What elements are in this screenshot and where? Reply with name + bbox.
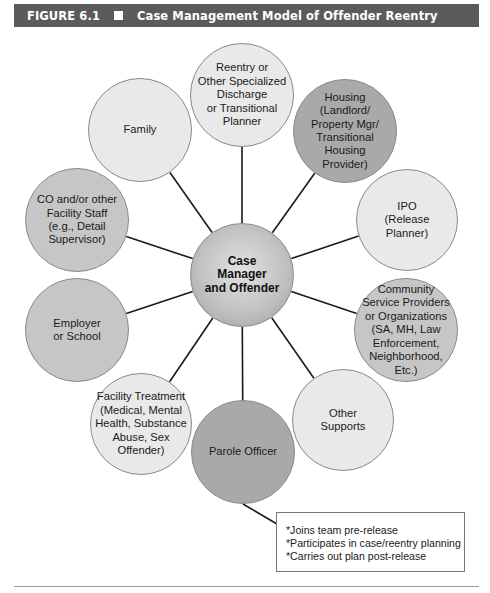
node-employer-school: Employer or School [25, 278, 129, 382]
link-employer-school [126, 291, 192, 313]
callout-line: *Carries out plan post-release [286, 550, 464, 563]
link-community-service [291, 292, 356, 314]
node-family: Family [88, 78, 192, 182]
node-label: Parole Officer [209, 445, 277, 458]
node-label: Employer or School [53, 317, 100, 344]
node-label: Other Supports [321, 407, 366, 434]
node-label: Facility Treatment (Medical, Mental Heal… [95, 390, 186, 457]
parole-officer-callout: *Joins team pre-release *Participates in… [276, 512, 465, 572]
link-other-supports [272, 318, 314, 379]
node-label: Reentry or Other Specialized Discharge o… [198, 61, 286, 128]
link-facility-treatment [170, 318, 213, 382]
node-community-service: Community Service Providers or Organizat… [354, 278, 458, 382]
center-node-case-manager: Case Manager and Offender [190, 223, 294, 327]
link-family [170, 173, 212, 233]
node-other-supports: Other Supports [292, 369, 394, 471]
bottom-divider [14, 586, 479, 587]
node-label: CO and/or other Facility Staff (e.g., De… [37, 193, 117, 247]
node-co-facility-staff: CO and/or other Facility Staff (e.g., De… [25, 168, 129, 272]
link-co-facility-staff [126, 236, 192, 258]
node-parole-officer: Parole Officer [191, 400, 295, 504]
node-housing: Housing (Landlord/ Property Mgr/ Transit… [293, 79, 397, 183]
node-reentry-planner: Reentry or Other Specialized Discharge o… [190, 43, 294, 147]
node-label: Housing (Landlord/ Property Mgr/ Transit… [311, 91, 379, 171]
callout-connector [243, 504, 277, 524]
node-ipo: IPO (Release Planner) [356, 169, 458, 271]
node-label: Family [124, 123, 157, 136]
node-label: IPO (Release Planner) [385, 200, 430, 240]
node-facility-treatment: Facility Treatment (Medical, Mental Heal… [90, 373, 192, 475]
callout-line: *Participates in case/reentry planning [286, 537, 464, 550]
link-ipo [291, 236, 358, 259]
node-label: Community Service Providers or Organizat… [362, 283, 450, 377]
link-housing [272, 173, 314, 232]
center-node-label: Case Manager and Offender [205, 255, 280, 296]
callout-line: *Joins team pre-release [286, 524, 464, 537]
